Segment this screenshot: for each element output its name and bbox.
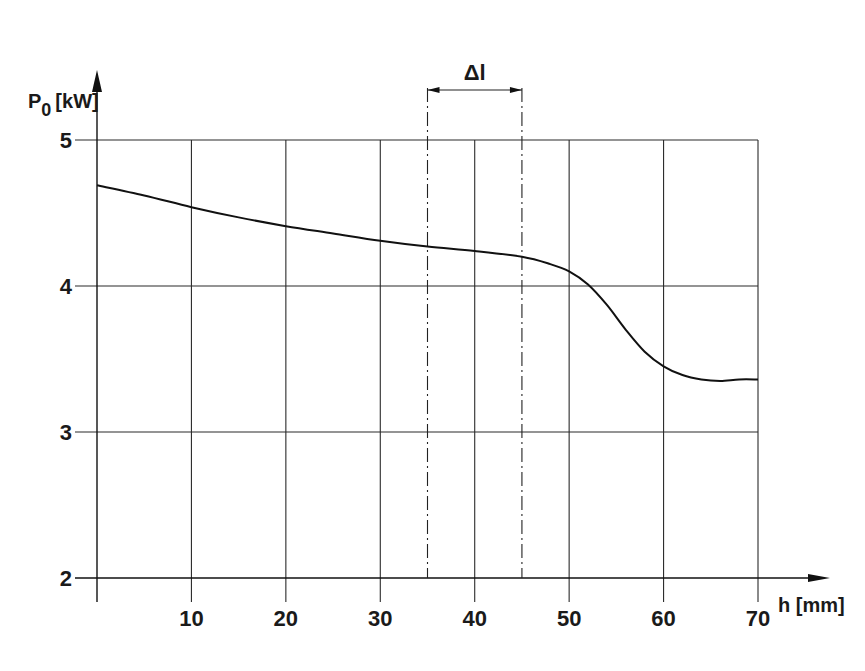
x-tick-label: 40 (462, 606, 486, 631)
axes (75, 70, 830, 602)
x-tick-label: 50 (557, 606, 581, 631)
y-axis-arrow-icon (92, 70, 102, 92)
grid-lines (75, 140, 758, 602)
x-tick-label: 60 (651, 606, 675, 631)
delta-l-label: Δl (464, 60, 486, 85)
x-axis-arrow-icon (808, 574, 830, 582)
y-tick-label: 4 (60, 274, 73, 299)
y-tick-label: 3 (60, 420, 72, 445)
x-tick-label: 20 (274, 606, 298, 631)
y-tick-label: 2 (60, 566, 72, 591)
y-axis-label: P0[kW] (28, 90, 99, 120)
x-axis-label: h [mm] (778, 594, 845, 616)
x-tick-label: 10 (179, 606, 203, 631)
x-tick-label: 30 (368, 606, 392, 631)
x-tick-label: 70 (746, 606, 770, 631)
line-chart: 234510203040506070 Δl P0[kW] h [mm] (0, 0, 865, 671)
y-tick-label: 5 (60, 128, 72, 153)
